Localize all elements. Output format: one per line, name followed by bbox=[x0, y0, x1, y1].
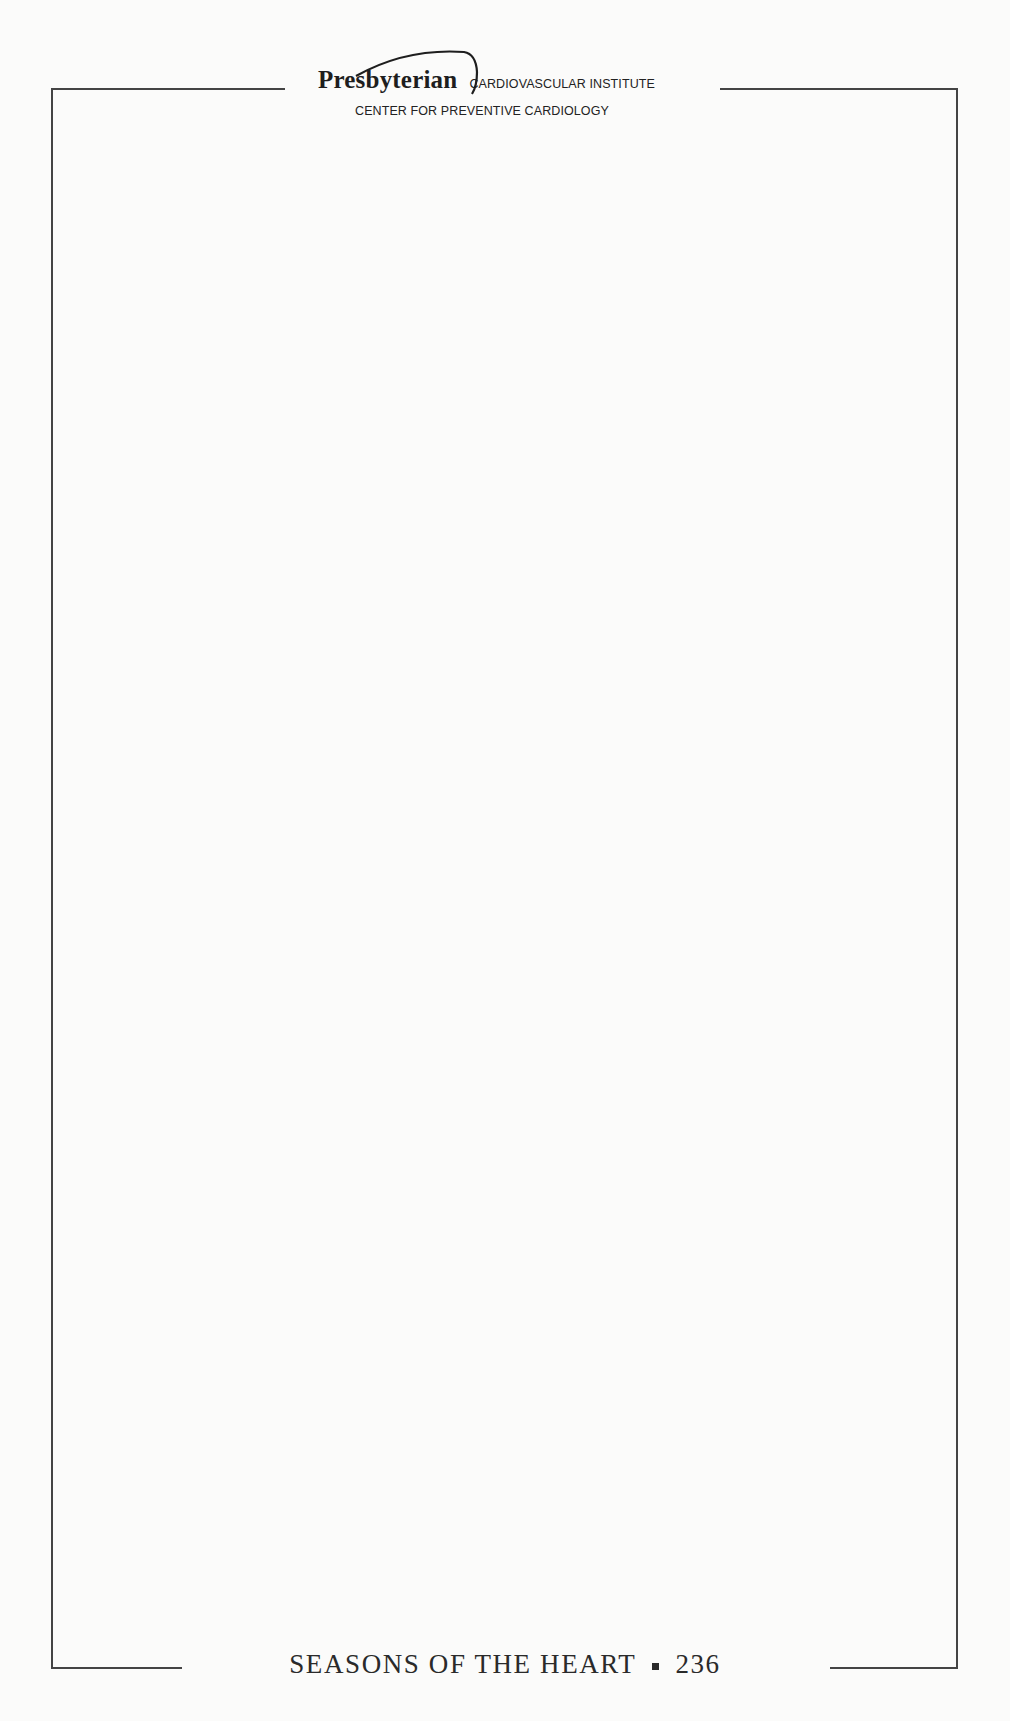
bullet-separator-icon bbox=[652, 1663, 659, 1670]
institute-name: CARDIOVASCULAR INSTITUTE bbox=[469, 77, 655, 91]
book-title: SEASONS OF THE HEART bbox=[289, 1649, 636, 1679]
frame-right-line bbox=[956, 88, 958, 1669]
notes-area bbox=[52, 90, 956, 1667]
page-footer: SEASONS OF THE HEART236 bbox=[0, 1649, 1010, 1680]
page-number: 236 bbox=[675, 1649, 720, 1679]
